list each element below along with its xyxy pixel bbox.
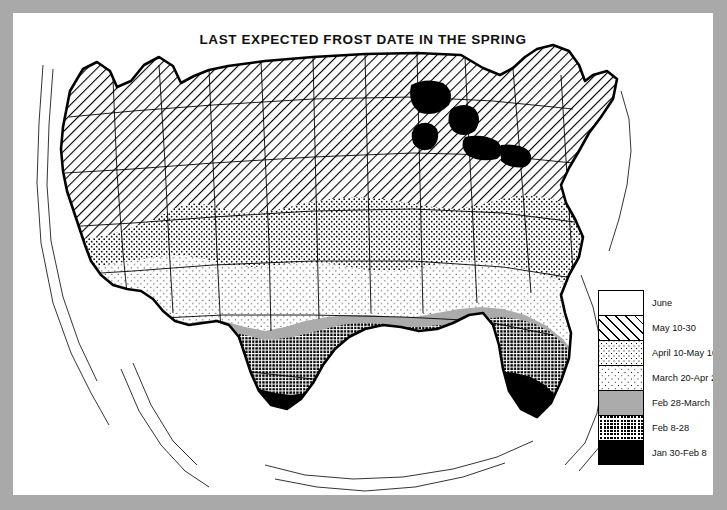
legend-label-jan-30-feb-8: Jan 30-Feb 8	[652, 448, 707, 458]
map-canvas: LAST EXPECTED FROST DATE IN THE SPRING	[13, 13, 713, 495]
legend-swatch-feb-8-28	[598, 415, 644, 440]
legend-item-march-20-apr-20: March 20-Apr 20	[598, 365, 713, 390]
map-legend: June May 10-30 April 10-May 10 March 20-…	[598, 290, 713, 465]
legend-item-jan-30-feb-8: Jan 30-Feb 8	[598, 440, 713, 465]
legend-swatch-april-10-may-10	[598, 340, 644, 365]
legend-label-feb-8-28: Feb 8-28	[652, 423, 689, 433]
legend-label-may-10-30: May 10-30	[652, 323, 696, 333]
legend-swatch-feb-28-march-10	[598, 390, 644, 415]
legend-item-june: June	[598, 290, 713, 315]
legend-swatch-may-10-30	[598, 315, 644, 340]
page-frame: LAST EXPECTED FROST DATE IN THE SPRING	[0, 0, 727, 510]
legend-label-march-20-apr-20: March 20-Apr 20	[652, 373, 713, 383]
legend-item-april-10-may-10: April 10-May 10	[598, 340, 713, 365]
legend-label-june: June	[652, 298, 672, 308]
legend-item-feb-8-28: Feb 8-28	[598, 415, 713, 440]
legend-swatch-june	[598, 290, 644, 315]
legend-item-may-10-30: May 10-30	[598, 315, 713, 340]
legend-label-april-10-may-10: April 10-May 10	[652, 348, 713, 358]
legend-swatch-march-20-apr-20	[598, 365, 644, 390]
legend-swatch-jan-30-feb-8	[598, 440, 644, 465]
legend-label-feb-28-march-10: Feb 28-March 10	[652, 398, 713, 408]
legend-item-feb-28-march-10: Feb 28-March 10	[598, 390, 713, 415]
